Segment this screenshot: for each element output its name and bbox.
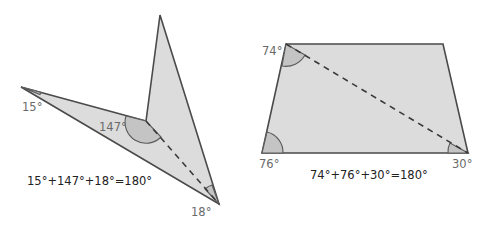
label-30: 30° [452,157,472,171]
label-74: 74° [262,44,282,58]
equation-left: 15°+147°+18°=180° [27,174,152,188]
label-147: 147° [99,120,127,134]
equation-right: 74°+76°+30°=180° [310,168,428,182]
label-15: 15° [22,100,42,114]
label-18: 18° [191,205,211,219]
trapezoid-figure: 74° 76° 30° 74°+76°+30°=180° [259,44,472,182]
label-76: 76° [259,157,279,171]
concave-quadrilateral-figure: 15° 147° 18° 15°+147°+18°=180° [21,15,219,219]
diagram-canvas: 15° 147° 18° 15°+147°+18°=180° 74° 76° 3… [0,0,488,230]
